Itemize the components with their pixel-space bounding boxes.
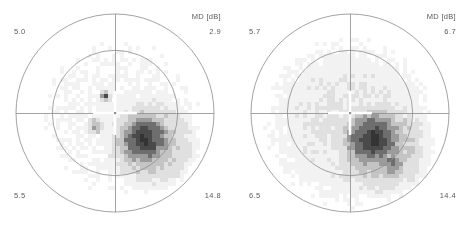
md-label-right: MD [dB] (427, 13, 456, 21)
corner-value-bottom-right-left: 14.8 (205, 192, 221, 200)
grayscale-plot-right (235, 0, 470, 230)
corner-value-bottom-left-left: 5.5 (14, 192, 26, 200)
visual-field-panel-left: MD [dB] 5.0 2.9 5.5 14.8 (0, 0, 235, 230)
visual-field-report: MD [dB] 5.0 2.9 5.5 14.8 MD [dB] 5.7 6.7… (0, 0, 470, 230)
corner-value-top-left-left: 5.0 (14, 28, 26, 36)
corner-value-bottom-right-right: 14.4 (440, 192, 456, 200)
visual-field-panel-right: MD [dB] 5.7 6.7 6.5 14.4 (235, 0, 470, 230)
md-label-left: MD [dB] (192, 13, 221, 21)
corner-value-top-right-right: 6.7 (444, 28, 456, 36)
corner-value-bottom-left-right: 6.5 (249, 192, 261, 200)
corner-value-top-left-right: 5.7 (249, 28, 261, 36)
grayscale-plot-left (0, 0, 235, 230)
corner-value-top-right-left: 2.9 (209, 28, 221, 36)
